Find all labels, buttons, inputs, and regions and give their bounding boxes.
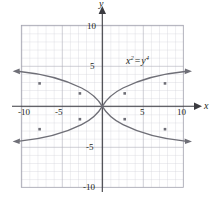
point-marker [38,82,41,85]
graph-figure: x2=y4 -10 -5 5 10 10 5 -5 -10 x y [0,0,216,200]
point-marker [164,82,167,85]
y-tick-label-neg5: -5 [86,143,94,152]
point-marker [79,118,82,121]
x-tick-label-neg10: -10 [18,108,30,117]
x-tick-label-5: 5 [140,108,145,117]
y-tick-label-5: 5 [90,62,95,71]
point-marker [123,92,126,95]
y-axis-name: y [99,0,103,9]
equation-annotation: x2=y4 [126,56,149,66]
x-tick-label-neg5: -5 [55,108,63,117]
y-tick-label-10: 10 [87,22,96,31]
point-marker [79,92,82,95]
point-marker [38,128,41,131]
point-marker [123,118,126,121]
x-axis-arrowhead [194,103,202,110]
x-tick-label-10: 10 [177,108,186,117]
x-axis-name: x [204,101,208,111]
equation-rhs-exponent: 4 [146,54,149,61]
y-tick-label-neg10: -10 [83,183,95,192]
point-marker [164,128,167,131]
coordinate-plane-svg [0,0,216,200]
